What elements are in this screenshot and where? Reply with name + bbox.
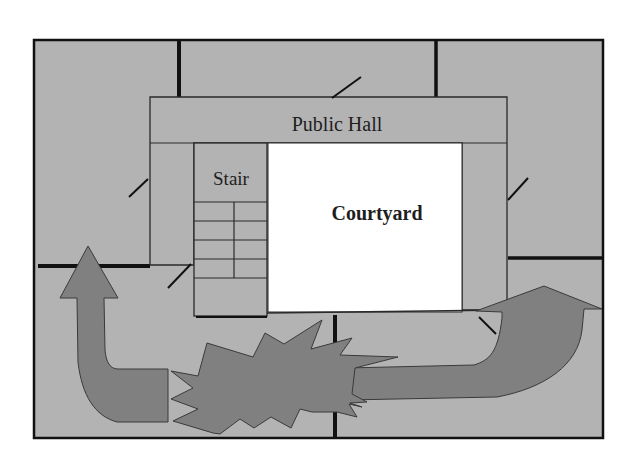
public-hall-label: Public Hall: [292, 113, 383, 135]
courtyard-label: Courtyard: [331, 202, 422, 225]
courtyard: [268, 143, 462, 312]
stair-label: Stair: [213, 168, 250, 189]
floor-plan: Public Hall Stair Courtyard: [0, 0, 635, 464]
